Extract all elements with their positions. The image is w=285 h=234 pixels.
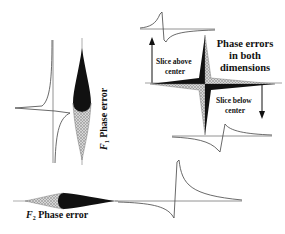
svg-text:Slice above: Slice above [156, 57, 192, 66]
f2-label: F2 Phase error [25, 209, 89, 221]
f1-phase-error-shape [73, 38, 91, 165]
f1-label: F1 Phase error [98, 87, 110, 151]
f1-spectrum [15, 40, 70, 163]
svg-text:center: center [165, 67, 186, 76]
down-arrow-icon [259, 85, 265, 119]
svg-text:in both: in both [229, 50, 261, 61]
phase-error-diagram: Slice above center Phase errors in both … [0, 0, 285, 234]
svg-text:F2 Phase error: F2 Phase error [25, 209, 89, 221]
slice-above-spectrum [140, 12, 215, 42]
svg-text:center: center [225, 106, 246, 115]
svg-text:Slice below: Slice below [216, 96, 252, 105]
f2-spectrum [115, 160, 242, 218]
phase-errors-title: Phase errors in both dimensions [217, 38, 274, 73]
slice-below-spectrum [172, 124, 272, 152]
svg-text:dimensions: dimensions [220, 62, 270, 73]
svg-text:Phase errors: Phase errors [217, 38, 274, 49]
slice-above-label: Slice above center [156, 57, 192, 76]
f2-phase-error-shape [13, 193, 118, 209]
up-arrow-icon [149, 37, 155, 83]
svg-text:F1 Phase error: F1 Phase error [98, 87, 110, 151]
slice-below-label: Slice below center [216, 96, 252, 115]
